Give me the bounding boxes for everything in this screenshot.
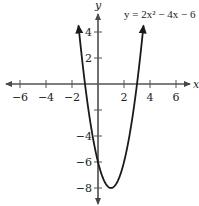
y-tick-label: −8 (76, 182, 92, 195)
x-tick-label: 4 (147, 91, 154, 104)
x-axis-label: x (193, 78, 199, 91)
y-tick-label: 2 (85, 52, 92, 65)
y-axis-label: y (94, 0, 102, 12)
y-tick-label: 4 (85, 26, 92, 39)
x-tick-label: −2 (64, 91, 80, 104)
equation-label: y = 2x² − 4x − 6 (124, 8, 196, 20)
x-tick-label: 2 (121, 91, 128, 104)
x-tick-label: −6 (12, 91, 28, 104)
y-tick-label: −6 (76, 156, 92, 169)
x-tick-label: 6 (173, 91, 180, 104)
parabola-curve (111, 26, 144, 189)
parabola-graph: −6−4−2246 42−4−6−8 x y y = 2x² − 4x − 6 (0, 0, 199, 206)
x-tick-label: −4 (38, 91, 54, 104)
y-tick-label: −4 (76, 130, 92, 143)
